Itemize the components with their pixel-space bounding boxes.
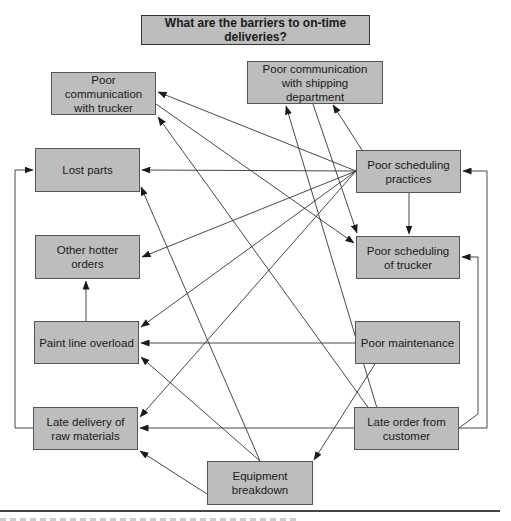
- caption-rule: [0, 510, 500, 512]
- edge-psp-oho: [142, 171, 356, 257]
- node-late-order-from-customer: Late order from customer: [354, 407, 459, 450]
- node-lost-parts: Lost parts: [35, 148, 140, 192]
- node-paint-line-overload: Paint line overload: [34, 321, 139, 364]
- edge-ldr-lp: [15, 170, 33, 428]
- edge-eb-lp: [141, 187, 260, 461]
- edge-loc-pst: [459, 257, 478, 428]
- node-equipment-breakdown: Equipment breakdown: [207, 461, 313, 505]
- node-poor-scheduling-practices: Poor scheduling practices: [356, 150, 461, 193]
- edge-psp-ldr: [140, 171, 356, 417]
- edge-psp-lp: [142, 170, 356, 171]
- diagram-title: What are the barriers to on-time deliver…: [141, 15, 370, 45]
- diagram-canvas: What are the barriers to on-time deliver…: [0, 0, 511, 521]
- edge-loc-psp: [459, 171, 487, 428]
- node-poor-maintenance: Poor maintenance: [355, 321, 460, 364]
- caption-clipped: [0, 514, 300, 521]
- edge-eb-ldr: [140, 451, 207, 494]
- edge-pct-pst: [156, 104, 354, 243]
- node-late-delivery-raw-materials: Late delivery of raw materials: [33, 407, 138, 450]
- node-poor-communication-with-trucker: Poor communication with trucker: [51, 72, 156, 115]
- edge-psp-pcs: [333, 105, 362, 150]
- edge-psp-plo: [141, 171, 356, 327]
- node-other-hotter-orders: Other hotter orders: [35, 235, 140, 279]
- node-poor-communication-with-shipping: Poor communication with shipping departm…: [247, 61, 383, 104]
- node-poor-scheduling-of-trucker: Poor scheduling of trucker: [356, 236, 460, 279]
- edge-loc-pct: [158, 117, 383, 428]
- edge-eb-plo: [141, 357, 260, 461]
